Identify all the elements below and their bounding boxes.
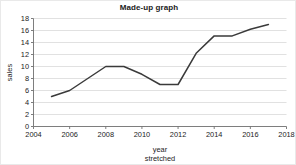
- x-axis-label-second-line: stretched: [145, 154, 175, 163]
- svg-text:6: 6: [25, 86, 29, 95]
- svg-text:14: 14: [21, 38, 29, 47]
- svg-text:2004: 2004: [25, 130, 41, 139]
- svg-text:2016: 2016: [242, 130, 258, 139]
- svg-text:4: 4: [25, 98, 29, 107]
- svg-text:18: 18: [21, 14, 29, 23]
- svg-text:16: 16: [21, 26, 29, 35]
- svg-text:8: 8: [25, 74, 29, 83]
- svg-text:2006: 2006: [61, 130, 77, 139]
- line-chart-plot: 024681012141618 200420062008201020122014…: [1, 1, 296, 165]
- data-series-line: [52, 25, 269, 97]
- gridlines-group: [34, 19, 287, 115]
- y-axis-label: sales: [5, 64, 14, 82]
- svg-text:10: 10: [21, 62, 29, 71]
- y-axis-tick-labels: 024681012141618: [21, 14, 29, 131]
- x-axis-tick-labels: 20042006200820102012201420162018: [25, 130, 294, 139]
- svg-text:2014: 2014: [206, 130, 222, 139]
- tick-marks-group: [31, 19, 287, 130]
- svg-text:2: 2: [25, 110, 29, 119]
- svg-text:12: 12: [21, 50, 29, 59]
- svg-text:2010: 2010: [134, 130, 150, 139]
- svg-text:2008: 2008: [98, 130, 114, 139]
- x-axis-label: year: [153, 145, 168, 154]
- chart-container: Made-up graph 024681012141618 2004200620…: [0, 0, 296, 165]
- svg-text:2012: 2012: [170, 130, 186, 139]
- svg-text:2018: 2018: [278, 130, 294, 139]
